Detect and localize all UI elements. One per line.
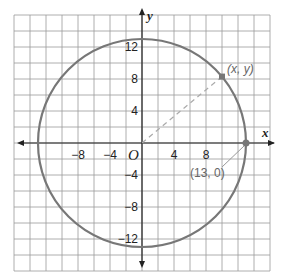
x-axis-arrow-left xyxy=(17,140,24,146)
x-tick-label: −4 xyxy=(103,148,117,162)
x-intercept-point xyxy=(243,140,250,147)
y-tick-label: 12 xyxy=(125,40,139,54)
y-tick-label: −8 xyxy=(124,200,138,214)
y-axis-label: y xyxy=(145,8,153,23)
x-axis-label: x xyxy=(261,125,269,140)
leader-line xyxy=(222,146,244,167)
y-tick-label: 4 xyxy=(131,104,138,118)
origin-label: O xyxy=(128,147,139,163)
x-tick-label: 8 xyxy=(203,148,210,162)
x-tick-label: −8 xyxy=(71,148,85,162)
x-tick-label: 4 xyxy=(171,148,178,162)
x-intercept-point-label: (13, 0) xyxy=(190,166,225,180)
y-axis-arrow-up xyxy=(139,8,145,15)
dashed-radius-segment xyxy=(142,77,222,143)
y-tick-label: 8 xyxy=(131,72,138,86)
y-tick-label: −12 xyxy=(118,232,139,246)
y-tick-label: −4 xyxy=(124,168,138,182)
general-point-label: (x, y) xyxy=(227,62,254,76)
coordinate-plane-figure: −8−4481284−4−8−12 x y O (x, y)(13, 0) xyxy=(0,0,284,276)
x-axis-arrow-right xyxy=(268,140,275,146)
y-axis-arrow-down xyxy=(139,261,145,268)
general-point xyxy=(219,74,225,80)
